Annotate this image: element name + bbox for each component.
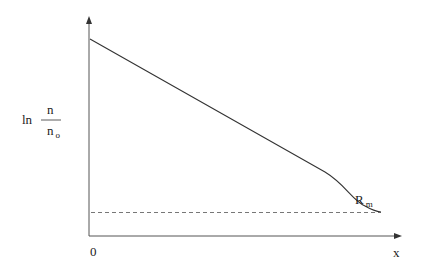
denominator-subscript: o	[56, 130, 61, 140]
denominator-text: n	[47, 123, 54, 138]
origin-label: 0	[90, 245, 97, 258]
y-axis-label-denominator: no	[47, 124, 60, 137]
curve-label-rm: Rm	[355, 193, 373, 206]
decay-curve	[90, 39, 381, 212]
diagram-canvas	[0, 0, 422, 271]
y-axis-label-ln: ln	[22, 113, 32, 126]
rm-main: R	[355, 192, 364, 207]
rm-subscript: m	[366, 199, 373, 209]
y-axis-label-numerator: n	[47, 103, 54, 116]
x-axis-label: x	[393, 246, 400, 259]
